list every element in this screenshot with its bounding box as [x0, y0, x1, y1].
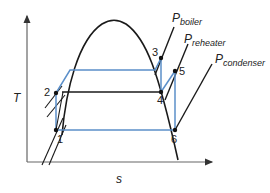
state-point-3	[159, 56, 163, 60]
isobar-label-boiler: Pboiler	[172, 11, 203, 27]
x-axis-label: s	[116, 172, 122, 186]
ts-diagram: 1 2 3 4 5 6 T s Pboiler Preheater Pconde…	[0, 0, 270, 193]
state-point-2	[54, 91, 58, 95]
state-label-5: 5	[179, 65, 185, 77]
state-label-6: 6	[171, 133, 177, 145]
cycle-pump-boiler	[56, 58, 161, 130]
state-label-2: 2	[44, 86, 50, 98]
y-axis-label: T	[13, 91, 22, 105]
isobar-label-reheater: Preheater	[184, 32, 227, 48]
state-label-1: 1	[57, 133, 63, 145]
state-point-1	[54, 128, 58, 132]
state-point-5	[173, 69, 177, 73]
state-point-6	[173, 128, 177, 132]
isobar-label-condenser: Pcondenser	[215, 52, 266, 68]
reheater-liquid-link	[56, 92, 63, 130]
state-label-3: 3	[152, 46, 158, 58]
state-label-4: 4	[157, 94, 163, 106]
